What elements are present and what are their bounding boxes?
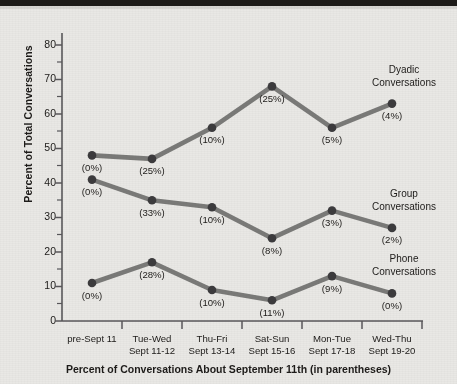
x-category-line1: Tue-Wed xyxy=(133,333,172,344)
x-category-line1: Wed-Thu xyxy=(372,333,411,344)
series-label-phone-line2: Conversations xyxy=(372,266,436,277)
point-label-phone: (28%) xyxy=(125,269,179,280)
point-label-dyadic: (0%) xyxy=(65,162,119,173)
series-label-group: Group Conversations xyxy=(356,188,452,213)
x-category-line2: Sept 19-20 xyxy=(369,345,416,356)
line-chart: Percent of Total Conversations 80 70 60 … xyxy=(0,0,457,384)
point-label-phone: (10%) xyxy=(185,297,239,308)
y-major-ticks xyxy=(55,45,62,321)
x-category-label: Wed-Thu Sept 19-20 xyxy=(349,333,435,357)
series-line-phone xyxy=(92,262,392,300)
point-label-group: (8%) xyxy=(245,245,299,256)
series-label-phone: Phone Conversations xyxy=(356,253,452,278)
x-category-line1: Thu-Fri xyxy=(197,333,228,344)
point-label-phone: (0%) xyxy=(65,290,119,301)
series-label-group-line2: Conversations xyxy=(372,201,436,212)
point-label-group: (10%) xyxy=(185,214,239,225)
point-label-group: (0%) xyxy=(65,186,119,197)
point-label-group: (33%) xyxy=(125,207,179,218)
series-label-dyadic-line1: Dyadic xyxy=(389,64,420,75)
point-label-group: (3%) xyxy=(305,217,359,228)
series-label-phone-line1: Phone xyxy=(390,253,419,264)
series-label-dyadic: Dyadic Conversations xyxy=(356,64,452,89)
series-label-dyadic-line2: Conversations xyxy=(372,77,436,88)
point-label-phone: (11%) xyxy=(245,307,299,318)
x-axis-title: Percent of Conversations About September… xyxy=(0,363,457,375)
point-label-dyadic: (10%) xyxy=(185,134,239,145)
x-category-line1: Mon-Tue xyxy=(313,333,351,344)
series-label-group-line1: Group xyxy=(390,188,418,199)
point-label-phone: (0%) xyxy=(365,300,419,311)
series-line-dyadic xyxy=(92,86,392,158)
x-category-line1: Sat-Sun xyxy=(255,333,290,344)
point-label-phone: (9%) xyxy=(305,283,359,294)
point-label-dyadic: (5%) xyxy=(305,134,359,145)
point-label-dyadic: (25%) xyxy=(125,165,179,176)
point-label-group: (2%) xyxy=(365,234,419,245)
x-ticks xyxy=(122,321,422,329)
point-label-dyadic: (25%) xyxy=(245,93,299,104)
point-label-dyadic: (4%) xyxy=(365,110,419,121)
